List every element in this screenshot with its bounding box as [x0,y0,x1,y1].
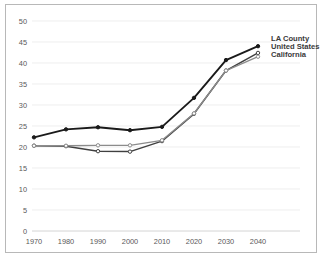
x-axis-tick-label: 1980 [58,237,74,246]
data-point-marker [96,144,99,147]
x-axis-tick-label: 2000 [122,237,138,246]
x-axis-tick-label: 2020 [186,237,202,246]
x-axis-tick-label: 2030 [218,237,234,246]
data-point-marker [128,150,131,153]
data-point-marker [256,51,259,54]
data-point-marker [192,112,195,115]
legend-item-label: California [271,50,307,59]
x-axis-tick-label: 1970 [26,237,42,246]
x-axis-tick-labels: 19701980199020002010202020302040 [26,237,266,246]
data-point-marker [256,45,259,48]
series-lines-group [34,46,258,151]
data-point-marker [224,69,227,72]
series-markers-group [32,45,259,154]
y-axis-tick-label: 15 [19,164,27,173]
line-chart: 05101520253035404550 1970198019902000201… [0,0,328,263]
y-axis-tick-label: 50 [19,17,27,26]
y-axis-tick-label: 25 [19,122,27,131]
y-axis-tick-labels: 05101520253035404550 [19,17,27,236]
x-axis-tick-label: 1990 [90,237,106,246]
data-point-marker [64,128,67,131]
y-axis-tick-label: 35 [19,80,27,89]
data-point-marker [224,58,227,61]
data-point-marker [64,144,67,147]
y-axis-tick-label: 0 [23,227,27,236]
y-axis-tick-label: 20 [19,143,27,152]
data-point-marker [32,136,35,139]
data-point-marker [128,129,131,132]
x-axis-tick-label: 2010 [154,237,170,246]
y-axis-tick-label: 10 [19,185,27,194]
data-point-marker [128,144,131,147]
data-point-marker [256,55,259,58]
y-axis-tick-label: 30 [19,101,27,110]
y-axis-tick-label: 45 [19,38,27,47]
data-point-marker [160,139,163,142]
x-axis-tick-label: 2040 [250,237,266,246]
series-line [34,53,258,152]
data-point-marker [32,144,35,147]
data-point-marker [96,150,99,153]
data-point-marker [160,125,163,128]
data-point-marker [192,96,195,99]
y-axis-tick-label: 40 [19,59,27,68]
chart-legend: LA CountyUnited StatesCalifornia [271,34,320,59]
y-axis-tick-label: 5 [23,206,27,215]
data-point-marker [96,126,99,129]
